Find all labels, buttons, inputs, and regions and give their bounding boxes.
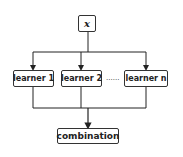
learner-node-n: learner n [124, 70, 168, 87]
combination-node: combination [57, 128, 119, 144]
combination-label: combination [57, 131, 120, 141]
input-node: x [78, 15, 96, 32]
learner-node-2: learner 2 [61, 70, 102, 87]
learner-label: learner 2 [61, 74, 102, 83]
learner-node-1: learner 1 [13, 70, 54, 87]
ellipsis: ...... [106, 74, 119, 82]
learner-label: learner 1 [13, 74, 54, 83]
input-label: x [84, 18, 90, 29]
learner-label: learner n [125, 74, 166, 83]
